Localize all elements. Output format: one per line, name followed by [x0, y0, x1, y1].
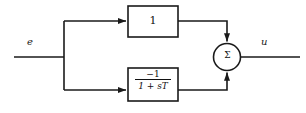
gain-to-sum-wire: [178, 21, 227, 42]
block-diagram: e u 1 −1 1 + sT Σ: [0, 0, 306, 113]
lag-block: [128, 68, 178, 101]
diagram-canvas: [0, 0, 306, 113]
gain-block: [128, 6, 178, 37]
summing-junction: [214, 44, 241, 71]
lag-to-sum-wire: [178, 73, 227, 91]
